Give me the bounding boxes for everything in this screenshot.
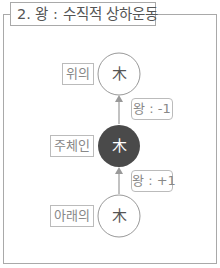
edge-label-minus: 왕 : -1 (131, 98, 173, 120)
node-bottom-glyph: 木 (99, 206, 139, 226)
arrowhead-icon (115, 167, 123, 174)
diagram-canvas (0, 0, 220, 268)
node-top-glyph: 木 (99, 64, 139, 84)
node-bottom-label: 아래의 (50, 205, 94, 227)
node-center-glyph: 木 (99, 136, 139, 156)
edge-label-plus: 왕 : +1 (131, 170, 173, 192)
node-center-label: 주체인 (50, 135, 94, 157)
node-top-label: 위의 (62, 63, 94, 85)
arrowhead-icon (115, 95, 123, 102)
